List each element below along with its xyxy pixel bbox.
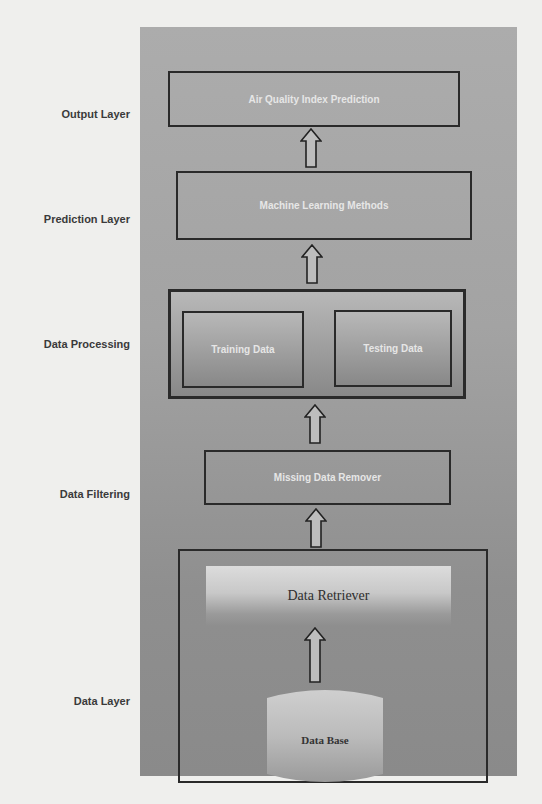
training-data-label: Training Data bbox=[211, 344, 274, 355]
output-node: Air Quality Index Prediction bbox=[168, 71, 460, 127]
layer-label-filtering: Data Filtering bbox=[0, 488, 130, 500]
missing-data-remover-node: Missing Data Remover bbox=[204, 450, 451, 505]
up-arrow-icon bbox=[301, 244, 323, 284]
prediction-node-label: Machine Learning Methods bbox=[260, 200, 389, 211]
layer-label-processing: Data Processing bbox=[0, 338, 130, 350]
database-node: Data Base bbox=[265, 686, 385, 786]
output-node-label: Air Quality Index Prediction bbox=[248, 94, 379, 105]
data-retriever-node: Data Retriever bbox=[206, 566, 451, 626]
layer-label-prediction: Prediction Layer bbox=[0, 213, 130, 225]
layer-label-data: Data Layer bbox=[0, 695, 130, 707]
database-label: Data Base bbox=[265, 734, 385, 746]
testing-data-label: Testing Data bbox=[363, 343, 422, 354]
testing-data-node: Testing Data bbox=[334, 310, 452, 387]
up-arrow-icon bbox=[300, 128, 322, 168]
up-arrow-icon bbox=[305, 508, 327, 548]
prediction-node: Machine Learning Methods bbox=[176, 171, 472, 240]
training-data-node: Training Data bbox=[182, 311, 304, 388]
up-arrow-icon bbox=[304, 404, 326, 444]
layer-label-output: Output Layer bbox=[0, 108, 130, 120]
missing-data-remover-label: Missing Data Remover bbox=[274, 472, 381, 483]
up-arrow-icon bbox=[304, 627, 326, 683]
data-retriever-label: Data Retriever bbox=[287, 588, 369, 604]
